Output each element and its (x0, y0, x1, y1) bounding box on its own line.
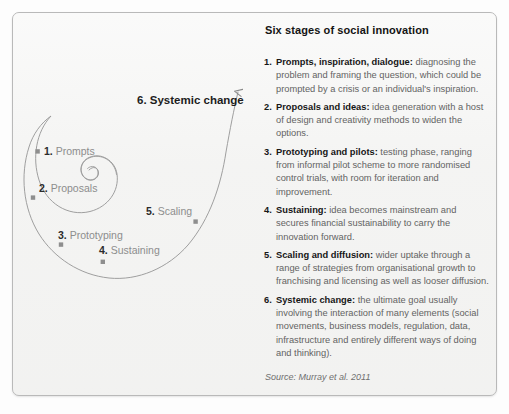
panel-heading: Six stages of social innovation (265, 24, 489, 36)
stage-term-6: Systemic change: (276, 295, 355, 305)
stage-term-3: Prototyping and pilots: (276, 147, 378, 157)
diagram-label-systemic-change-number: 6. (137, 94, 147, 106)
diagram-label-proposals-number: 2. (39, 182, 48, 194)
diagram-label-proposals-text: Proposals (51, 182, 98, 194)
diagram-label-prototyping-number: 3. (58, 229, 67, 241)
diagram-label-systemic-change-text: Systemic change (150, 94, 244, 106)
stage-item-2: 2.Proposals and ideas: idea generation w… (263, 101, 489, 141)
stage-term-2: Proposals and ideas: (276, 102, 370, 112)
stage-term-1: Prompts, inspiration, dialogue: (276, 57, 413, 67)
diagram-label-systemic-change: 6. Systemic change (137, 94, 244, 106)
stage-item-6: 6.Systemic change: the ultimate goal usu… (263, 294, 489, 360)
diagram-label-proposals: 2. Proposals (39, 182, 97, 194)
diagram-label-scaling-text: Scaling (158, 205, 192, 217)
node-marker-prototyping (59, 242, 63, 246)
stages-panel: Six stages of social innovation 1.Prompt… (263, 24, 489, 384)
source-citation: Source: Murray et al. 2011 (265, 372, 489, 382)
diagram-label-sustaining-number: 4. (99, 244, 108, 256)
node-marker-prompts (35, 149, 39, 153)
stage-item-1: 1.Prompts, inspiration, dialogue: diagno… (263, 56, 489, 96)
node-marker-sustaining (101, 260, 105, 264)
stage-marker-4: 4. (264, 204, 272, 217)
stages-list: 1.Prompts, inspiration, dialogue: diagno… (263, 56, 489, 360)
stage-item-3: 3.Prototyping and pilots: testing phase,… (263, 146, 489, 199)
diagram-label-prototyping: 3. Prototyping (58, 229, 123, 241)
spiral-curve-svg (13, 13, 259, 395)
node-marker-proposals (31, 195, 35, 199)
stage-marker-3: 3. (264, 146, 272, 159)
stage-term-5: Scaling and diffusion: (276, 250, 373, 260)
stage-term-4: Sustaining: (276, 205, 327, 215)
stage-marker-5: 5. (264, 249, 272, 262)
node-marker-scaling (193, 219, 197, 223)
diagram-label-scaling-number: 5. (146, 205, 155, 217)
diagram-label-sustaining-text: Sustaining (111, 244, 160, 256)
diagram-label-sustaining: 4. Sustaining (99, 244, 160, 256)
diagram-label-prompts-text: Prompts (56, 145, 95, 157)
diagram-label-scaling: 5. Scaling (146, 205, 192, 217)
figure-root: 6. Systemic change 1. Prompts 2. Proposa… (0, 0, 509, 414)
stage-marker-6: 6. (264, 294, 272, 307)
stage-marker-1: 1. (264, 56, 272, 69)
stage-item-5: 5.Scaling and diffusion: wider uptake th… (263, 249, 489, 289)
diagram-label-prompts: 1. Prompts (44, 145, 95, 157)
stage-item-4: 4.Sustaining: idea becomes mainstream an… (263, 204, 489, 244)
stage-marker-2: 2. (264, 101, 272, 114)
diagram-label-prompts-number: 1. (44, 145, 53, 157)
diagram-label-prototyping-text: Prototyping (70, 229, 123, 241)
spiral-diagram: 6. Systemic change 1. Prompts 2. Proposa… (13, 13, 259, 395)
